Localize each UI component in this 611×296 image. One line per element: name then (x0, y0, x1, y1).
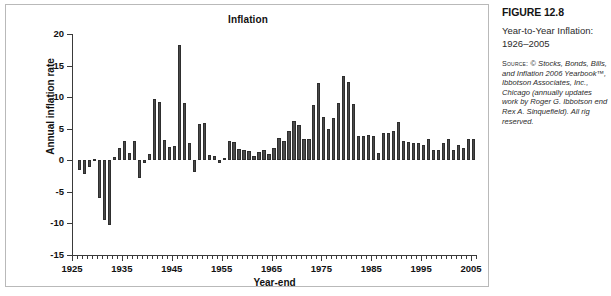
bar (442, 143, 445, 160)
x-tick-minor (232, 256, 233, 259)
bar (467, 139, 470, 160)
x-tick-minor (117, 256, 118, 259)
y-axis-title: Annual inflation rate (45, 27, 56, 187)
bar (232, 142, 235, 160)
bar (173, 146, 176, 161)
bar (347, 82, 350, 160)
x-tick-minor (247, 256, 248, 259)
x-tick-minor (92, 256, 93, 259)
bar (108, 160, 111, 225)
bar (183, 103, 186, 160)
x-tick-minor (336, 256, 337, 259)
x-tick-minor (331, 256, 332, 259)
x-tick-minor (306, 256, 307, 259)
bar (457, 145, 460, 160)
bar (382, 133, 385, 161)
x-tick-label: 1975 (311, 263, 332, 274)
x-tick-major (421, 256, 422, 261)
x-tick-minor (346, 256, 347, 259)
x-tick-minor (192, 256, 193, 259)
bar (472, 139, 475, 160)
x-tick-minor (361, 256, 362, 259)
bar (397, 122, 400, 161)
x-tick-minor (147, 256, 148, 259)
bar (407, 142, 410, 160)
bar (193, 160, 196, 171)
x-tick-minor (177, 256, 178, 259)
y-tick-label: -10 (24, 217, 64, 228)
x-tick-minor (82, 256, 83, 259)
x-tick-minor (207, 256, 208, 259)
bar (78, 160, 81, 169)
x-tick-minor (187, 256, 188, 259)
x-tick-minor (476, 256, 477, 259)
bar (362, 136, 365, 160)
x-tick-label: 1935 (111, 263, 132, 274)
x-tick-minor (341, 256, 342, 259)
x-tick-major (371, 256, 372, 261)
bar (262, 150, 265, 160)
figure-title: Year-to-Year Inflation: 1926–2005 (502, 25, 609, 50)
x-tick-minor (436, 256, 437, 259)
x-tick-minor (291, 256, 292, 259)
x-tick-minor (202, 256, 203, 259)
bar (98, 160, 101, 198)
x-tick-minor (102, 256, 103, 259)
bar (277, 138, 280, 160)
bar (133, 141, 136, 161)
bar (242, 150, 245, 161)
bar (83, 160, 86, 173)
x-tick-major (222, 256, 223, 261)
x-tick-label: 1985 (361, 263, 382, 274)
bar (367, 135, 370, 160)
x-tick-minor (326, 256, 327, 259)
x-tick-label: 1955 (211, 263, 232, 274)
x-tick-minor (301, 256, 302, 259)
chart-plate: Inflation 20151050-5-10-15 1925193519451… (5, 4, 489, 287)
bar (118, 148, 121, 161)
bar (322, 117, 325, 161)
bar (387, 133, 390, 161)
x-tick-minor (296, 256, 297, 259)
x-tick-minor (281, 256, 282, 259)
x-tick-minor (451, 256, 452, 259)
bar (128, 153, 131, 161)
x-axis-title: Year-end (72, 277, 477, 288)
x-tick-minor (316, 256, 317, 259)
x-tick-minor (217, 256, 218, 259)
bar (327, 129, 330, 160)
bar (342, 76, 345, 160)
bar (138, 160, 141, 178)
bar (158, 102, 161, 161)
x-tick-minor (411, 256, 412, 259)
bar (317, 83, 320, 161)
bar (377, 153, 380, 160)
x-tick-minor (237, 256, 238, 259)
x-tick-minor (356, 256, 357, 259)
bar (307, 139, 310, 160)
bar (168, 147, 171, 160)
x-tick-major (172, 256, 173, 261)
x-tick-minor (167, 256, 168, 259)
x-tick-minor (162, 256, 163, 259)
x-tick-minor (366, 256, 367, 259)
bar (282, 141, 285, 160)
bar (437, 150, 440, 160)
x-tick-minor (446, 256, 447, 259)
x-tick-minor (132, 256, 133, 259)
x-tick-minor (77, 256, 78, 259)
bar (123, 141, 126, 160)
bar (228, 141, 231, 160)
x-tick-minor (461, 256, 462, 259)
x-tick-minor (257, 256, 258, 259)
x-tick-minor (107, 256, 108, 259)
figure-source: Source: © Stocks, Bonds, Bills, and Infl… (502, 59, 609, 126)
bar (312, 105, 315, 160)
x-tick-minor (376, 256, 377, 259)
x-tick-minor (137, 256, 138, 259)
x-tick-label: 1995 (411, 263, 432, 274)
bar (402, 141, 405, 161)
y-tick-label: -15 (24, 249, 64, 260)
bar (372, 136, 375, 160)
x-tick-minor (311, 256, 312, 259)
